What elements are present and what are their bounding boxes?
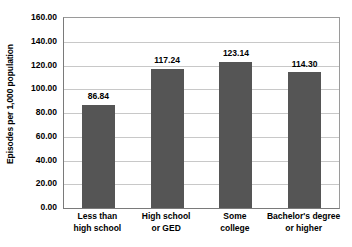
bar[interactable] xyxy=(288,72,321,208)
bar-value-label: 86.84 xyxy=(88,92,109,101)
x-axis-category-label-line: Bachelor's degree xyxy=(261,211,346,223)
bar-slot: 123.14 xyxy=(219,18,252,208)
bars-group: 86.84117.24123.14114.30 xyxy=(64,18,339,208)
bar-slot: 117.24 xyxy=(151,18,184,208)
y-axis-title: Episodes per 1,000 population xyxy=(0,0,20,207)
bar[interactable] xyxy=(151,69,184,208)
bar-slot: 86.84 xyxy=(82,18,115,208)
y-axis-tick-label: 100.00 xyxy=(15,84,57,93)
bar-value-label: 123.14 xyxy=(223,49,249,58)
bar-chart: Episodes per 1,000 population 160.00140.… xyxy=(0,0,352,247)
y-axis-tick-label: 80.00 xyxy=(15,108,57,117)
y-axis-tick-label: 140.00 xyxy=(15,37,57,46)
y-axis-tick-label: 120.00 xyxy=(15,60,57,69)
y-axis-tick-label: 0.00 xyxy=(15,203,57,212)
y-axis-tick-label: 60.00 xyxy=(15,132,57,141)
y-axis-tick-labels: 160.00140.00120.00100.0080.0060.0040.002… xyxy=(18,17,60,207)
plot-area: 86.84117.24123.14114.30 xyxy=(63,17,340,209)
bar-slot: 114.30 xyxy=(288,18,321,208)
x-axis-category-labels: Less thanhigh schoolHigh schoolor GEDSom… xyxy=(63,211,340,247)
y-axis-tick-label: 40.00 xyxy=(15,155,57,164)
y-axis-title-text: Episodes per 1,000 population xyxy=(5,44,15,164)
bar-value-label: 117.24 xyxy=(154,56,180,65)
bar[interactable] xyxy=(82,105,115,208)
y-axis-tick-label: 160.00 xyxy=(15,13,57,22)
y-axis-tick-label: 20.00 xyxy=(15,179,57,188)
x-axis-category-label: Bachelor's degreeor higher xyxy=(261,211,346,234)
bar[interactable] xyxy=(219,62,252,208)
bar-value-label: 114.30 xyxy=(292,60,318,69)
x-axis-category-label-line: or higher xyxy=(261,223,346,235)
